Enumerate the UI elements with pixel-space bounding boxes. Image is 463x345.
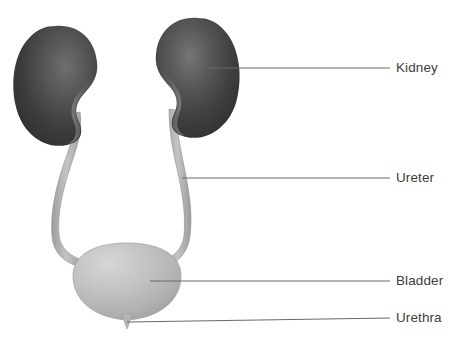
urethra-leader-line (127, 318, 390, 322)
label-bladder: Bladder (396, 274, 443, 288)
label-kidney: Kidney (396, 61, 438, 75)
anatomy-illustration (0, 0, 463, 345)
kidney-right-shape (156, 18, 240, 138)
urinary-system-diagram: Kidney Ureter Bladder Urethra (0, 0, 463, 345)
label-ureter: Ureter (396, 171, 434, 185)
label-urethra: Urethra (396, 311, 442, 325)
kidney-left-shape (13, 26, 97, 146)
